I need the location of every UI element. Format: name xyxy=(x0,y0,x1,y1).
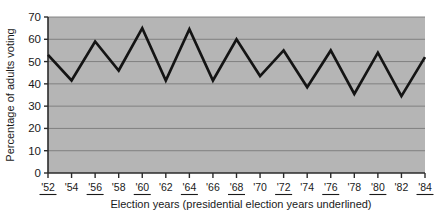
voter-turnout-chart: 010203040506070 '52'54'56'58'60'62'64'66… xyxy=(0,0,443,216)
y-tick-label: 60 xyxy=(28,33,41,45)
x-tick-label: '82 xyxy=(395,181,409,193)
y-tick-label: 0 xyxy=(35,167,41,179)
x-tick-label: '64 xyxy=(183,181,197,193)
x-axis-label: Election years (presidential election ye… xyxy=(110,198,371,210)
y-tick-label: 10 xyxy=(28,145,41,157)
y-tick-label: 40 xyxy=(28,78,41,90)
x-tick-label: '68 xyxy=(230,181,244,193)
x-tick-label: '56 xyxy=(88,181,102,193)
x-tick-label: '62 xyxy=(159,181,173,193)
y-tick-label: 70 xyxy=(28,11,41,23)
x-tick-label: '52 xyxy=(41,181,55,193)
x-tick-label: '72 xyxy=(277,181,291,193)
x-tick-label: '74 xyxy=(300,181,314,193)
y-tick-label: 50 xyxy=(28,56,41,68)
x-tick-labels: '52'54'56'58'60'62'64'66'68'70'72'74'76'… xyxy=(41,181,432,193)
x-tick-label: '76 xyxy=(324,181,338,193)
y-axis-label: Percentage of adults voting xyxy=(4,28,16,161)
x-tick-label: '78 xyxy=(347,181,361,193)
x-tick-label: '84 xyxy=(418,181,432,193)
x-tick-label: '80 xyxy=(371,181,385,193)
y-tick-label: 30 xyxy=(28,100,41,112)
x-tick-label: '60 xyxy=(135,181,149,193)
x-tick-label: '70 xyxy=(253,181,267,193)
x-tick-label: '66 xyxy=(206,181,220,193)
chart-canvas: 010203040506070 '52'54'56'58'60'62'64'66… xyxy=(0,0,443,216)
x-tick-label: '58 xyxy=(112,181,126,193)
x-tick-label: '54 xyxy=(65,181,79,193)
y-tick-label: 20 xyxy=(28,122,41,134)
